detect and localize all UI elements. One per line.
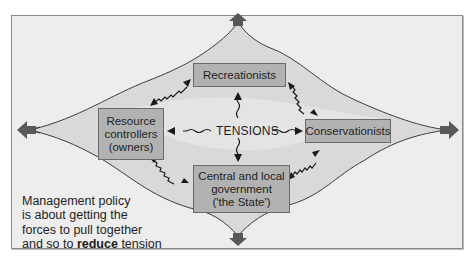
arrow-up-icon [229,13,247,26]
node-label-line2: government [211,183,272,196]
node-resource-controllers: Resource controllers (owners) [98,108,164,160]
node-label: Recreationists [203,69,276,82]
caption-text: tension [118,237,162,251]
arrow-down-icon [229,233,247,246]
node-label-line2: controllers [104,128,157,141]
arrow-right-icon [440,121,459,139]
node-label-line3: (owners) [109,141,154,154]
node-label-line1: Resource [106,115,155,128]
node-label-line3: ('the State') [212,196,270,209]
node-conservationists: Conservationists [305,119,391,143]
caption-line: is about getting the [22,208,162,222]
caption-line: forces to pull together [22,223,162,237]
tensions-label: TENSIONS [216,124,279,138]
node-label-line1: Central and local [198,170,284,183]
caption-emphasis: reduce [77,237,118,251]
node-recreationists: Recreationists [193,63,286,87]
caption: Management policy is about getting the f… [22,194,162,251]
arrow-left-icon [17,121,36,139]
node-label: Conservationists [306,125,391,138]
caption-text: and so to [22,237,77,251]
caption-line: and so to reduce tension [22,237,162,251]
caption-line: Management policy [22,194,162,208]
node-government: Central and local government ('the State… [193,165,290,213]
